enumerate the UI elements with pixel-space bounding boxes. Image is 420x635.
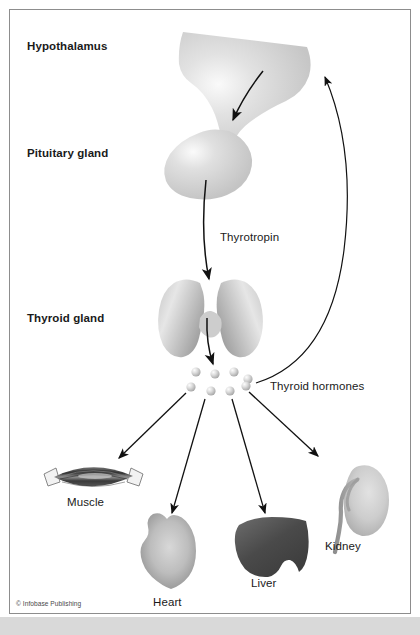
label-thyrotropin: Thyrotropin: [220, 232, 279, 244]
credit-line: © Infobase Publishing: [16, 601, 81, 608]
label-kidney: Kidney: [325, 541, 361, 553]
label-thyroid-gland: Thyroid gland: [27, 313, 104, 325]
liver-shape: [235, 517, 309, 577]
label-hypothalamus: Hypothalamus: [27, 41, 107, 53]
thyroid-regulation-figure: Hypothalamus Pituitary gland Thyroid gla…: [0, 0, 420, 635]
label-muscle: Muscle: [67, 497, 104, 509]
label-heart: Heart: [153, 597, 182, 609]
label-liver: Liver: [251, 578, 276, 590]
label-thyroid-hormones: Thyroid hormones: [270, 381, 364, 393]
footer-strip: [0, 617, 420, 635]
label-pituitary-gland: Pituitary gland: [27, 148, 108, 160]
